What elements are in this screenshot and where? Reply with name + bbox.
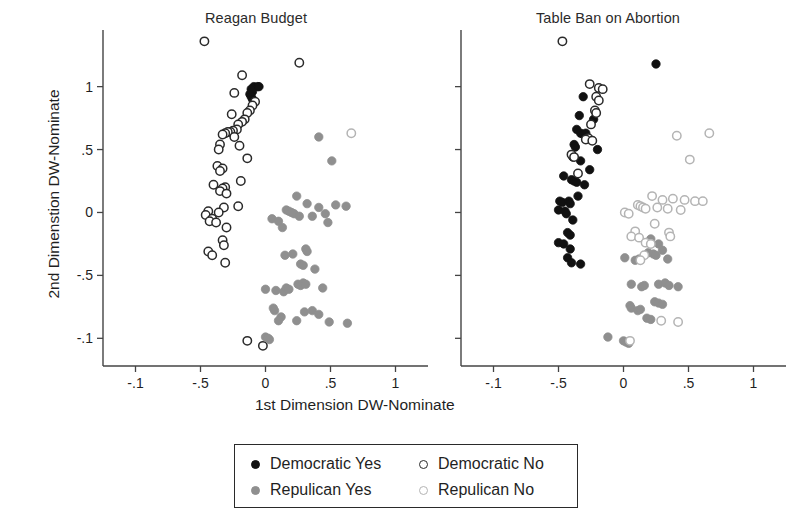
open-black-circle-icon [419, 460, 428, 469]
data-point [325, 318, 333, 326]
legend-label-repulican-no: Repulican No [438, 481, 534, 499]
data-point [222, 223, 230, 231]
legend-label-democratic-yes: Democratic Yes [270, 455, 381, 473]
data-point [560, 172, 568, 180]
data-point [343, 319, 351, 327]
data-point [664, 205, 672, 213]
data-point [315, 310, 323, 318]
data-point [666, 232, 674, 240]
data-point [625, 210, 633, 218]
data-point [234, 202, 242, 210]
data-point [651, 220, 659, 228]
data-point [647, 240, 655, 248]
x-tick-label: 1 [750, 375, 758, 391]
x-tick-label: .5 [683, 375, 695, 391]
legend-label-democratic-no: Democratic No [438, 455, 544, 473]
data-point [658, 196, 666, 204]
data-point [586, 80, 594, 88]
data-point [243, 337, 251, 345]
data-point [315, 203, 323, 211]
y-tick-label: -.5 [67, 267, 93, 283]
x-tick-label: -.5 [192, 375, 208, 391]
y-tick-label: 0 [67, 204, 93, 220]
data-point [574, 192, 582, 200]
data-point [562, 210, 570, 218]
data-point [653, 203, 661, 211]
data-point [604, 333, 612, 341]
data-point [259, 342, 267, 350]
data-point [215, 145, 223, 153]
data-point [220, 241, 228, 249]
data-point [580, 181, 588, 189]
data-point [641, 205, 649, 213]
data-point [686, 155, 694, 163]
data-point [278, 223, 286, 231]
data-point [674, 318, 682, 326]
data-point [570, 153, 578, 161]
data-point [328, 157, 336, 165]
legend-entry-repulican-yes: Repulican Yes [251, 481, 371, 499]
data-point [574, 169, 582, 177]
data-point [230, 133, 238, 141]
data-point [218, 130, 226, 138]
data-point [636, 305, 644, 313]
data-point [303, 247, 311, 255]
data-point [299, 261, 307, 269]
data-point [657, 317, 665, 325]
data-point [566, 199, 574, 207]
legend-entry-repulican-no: Repulican No [419, 481, 534, 499]
data-point [652, 60, 660, 68]
x-tick-label: .5 [325, 375, 337, 391]
data-point [311, 265, 319, 273]
data-point [664, 255, 672, 263]
data-point [673, 132, 681, 140]
data-point [221, 259, 229, 267]
data-point [575, 111, 583, 119]
data-point [300, 308, 308, 316]
data-point [212, 218, 220, 226]
x-tick-label: 0 [262, 375, 270, 391]
data-point [208, 251, 216, 259]
data-point [308, 212, 316, 220]
data-point [677, 206, 685, 214]
data-point [293, 192, 301, 200]
data-point [281, 251, 289, 259]
x-tick-label: -.5 [550, 375, 566, 391]
data-point [669, 194, 677, 202]
data-point [648, 192, 656, 200]
data-point [567, 259, 575, 267]
data-point [342, 202, 350, 210]
data-point [579, 93, 587, 101]
scatter-figure: Reagan Budget Table Ban on Abortion 1st … [0, 0, 809, 528]
y-tick-label: 1 [67, 79, 93, 95]
data-point [636, 256, 644, 264]
data-point [293, 317, 301, 325]
data-point [592, 109, 600, 117]
data-point [274, 317, 282, 325]
data-point [640, 281, 648, 289]
data-point [674, 283, 682, 291]
data-point [315, 133, 323, 141]
x-tick-label: 1 [392, 375, 400, 391]
data-point [272, 286, 280, 294]
y-tick-label: .5 [67, 142, 93, 158]
data-point [295, 212, 303, 220]
data-point [237, 177, 245, 185]
data-point [626, 337, 634, 345]
data-point [699, 197, 707, 205]
data-point [647, 315, 655, 323]
x-tick-label: -.1 [127, 375, 143, 391]
data-point [586, 165, 594, 173]
data-point [627, 280, 635, 288]
x-tick-label: 0 [620, 375, 628, 391]
open-gray-circle-icon [419, 486, 428, 495]
data-point [302, 280, 310, 288]
data-point [321, 210, 329, 218]
data-point [566, 231, 574, 239]
data-point [627, 232, 635, 240]
data-point [265, 335, 273, 343]
legend-label-repulican-yes: Repulican Yes [270, 481, 371, 499]
data-point [566, 245, 574, 253]
data-point [238, 71, 246, 79]
data-point [216, 167, 224, 175]
